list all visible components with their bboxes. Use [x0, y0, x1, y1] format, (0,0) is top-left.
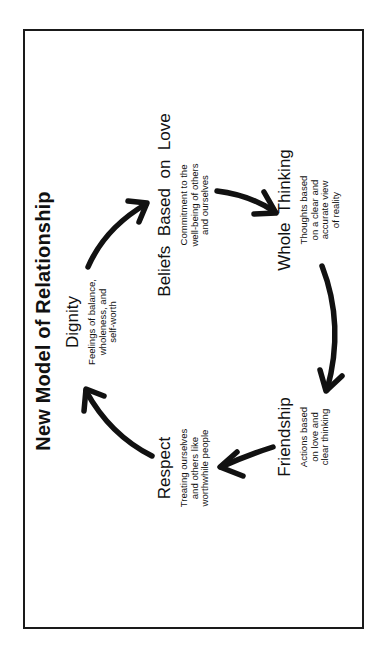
arrow-friendship-to-respect-icon [220, 447, 273, 476]
arrow-respect-to-dignity-icon [84, 389, 152, 456]
arrow-whole-thinking-to-friendship-icon [320, 266, 342, 391]
cycle-arrows [0, 0, 384, 669]
arrow-beliefs-to-whole-thinking-icon [217, 191, 276, 214]
arrow-dignity-to-beliefs-icon [88, 201, 147, 267]
